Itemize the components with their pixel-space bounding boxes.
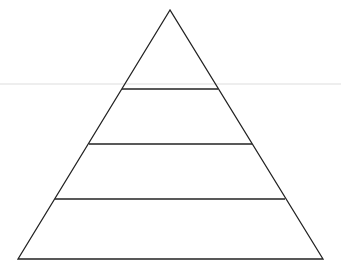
pyramid-diagram: [0, 0, 341, 268]
pyramid-outline: [18, 10, 323, 259]
